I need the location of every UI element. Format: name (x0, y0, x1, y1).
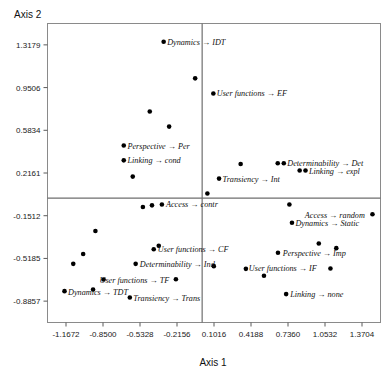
data-point (276, 250, 281, 255)
data-point (370, 212, 375, 217)
data-point (262, 274, 267, 279)
y-tick-label: -0.5185 (13, 254, 41, 263)
data-point (71, 262, 76, 267)
data-point (121, 143, 126, 148)
x-tick-label: 0.4188 (239, 330, 264, 339)
data-point-label: Dynamics → TDT (67, 288, 129, 297)
data-point (147, 109, 152, 114)
data-point-label: Linking → none (289, 290, 344, 299)
data-point (217, 176, 222, 181)
data-point (130, 174, 135, 179)
y-tick-label: -0.8857 (13, 297, 41, 306)
data-point-label: Transiency → Int (223, 175, 281, 184)
data-point-label: Access → contr (165, 200, 219, 209)
data-point (290, 220, 295, 225)
data-point-label: Dynamics → IDT (166, 38, 227, 47)
data-point (174, 277, 179, 282)
x-tick-label: 0.1016 (202, 330, 227, 339)
x-tick-label: -0.8500 (89, 330, 117, 339)
data-point (161, 39, 166, 44)
data-point (316, 241, 321, 246)
data-point-label: User functions → IF (249, 264, 318, 273)
plot-canvas: -1.1672-0.8500-0.5328-0.21560.10160.4188… (0, 0, 391, 374)
data-point-label: Determinability → Ind (139, 260, 216, 269)
y-tick-label: 1.3179 (16, 41, 41, 50)
data-point-label: User functions → TF (100, 276, 171, 285)
data-point (244, 267, 249, 272)
x-tick-label: -1.1672 (52, 330, 80, 339)
data-point (121, 158, 126, 163)
data-point (205, 191, 210, 196)
data-point (93, 229, 98, 234)
data-point (238, 162, 243, 167)
y-tick-label: -0.1512 (13, 212, 41, 221)
data-point-label: Perspective → Per (126, 142, 190, 151)
data-point (328, 266, 333, 271)
data-point (133, 262, 138, 267)
y-tick-label: 0.9506 (16, 84, 41, 93)
data-point (284, 292, 289, 297)
data-point (81, 252, 86, 257)
data-point (141, 205, 146, 210)
data-point-label: Dynamics → Static (294, 219, 359, 228)
data-point-label: Determinability → Det (286, 159, 364, 168)
x-tick-label: 1.0532 (313, 330, 338, 339)
data-point-label: Perspective → Imp (282, 249, 346, 258)
data-point-label: User functions → EF (217, 89, 288, 98)
x-tick-label: 0.7360 (276, 330, 301, 339)
data-point (275, 161, 280, 166)
data-point (303, 168, 308, 173)
data-point (287, 202, 292, 207)
data-point (160, 202, 165, 207)
data-point-label: Linking → cond (126, 156, 181, 165)
x-tick-label: 1.3704 (350, 330, 375, 339)
y-axis-title: Axis 2 (14, 9, 42, 20)
data-point (211, 91, 216, 96)
data-point (151, 247, 156, 252)
scatter-chart: -1.1672-0.8500-0.5328-0.21560.10160.4188… (0, 0, 391, 374)
x-axis-title: Axis 1 (199, 357, 227, 368)
data-point-label: User functions → CF (158, 245, 230, 254)
y-tick-label: 0.2161 (16, 169, 41, 178)
data-point (282, 161, 287, 166)
chart-background (0, 0, 391, 374)
data-point (62, 289, 67, 294)
data-point (297, 168, 302, 173)
x-tick-label: -0.5328 (126, 330, 154, 339)
x-tick-label: -0.2156 (163, 330, 191, 339)
data-point-label: Transiency → Trans (133, 294, 200, 303)
data-point-label: Linking → expl (308, 167, 361, 176)
y-tick-label: 0.5834 (16, 126, 41, 135)
data-point (128, 295, 133, 300)
data-point (167, 124, 172, 129)
data-point (193, 76, 198, 81)
data-point (150, 203, 155, 208)
